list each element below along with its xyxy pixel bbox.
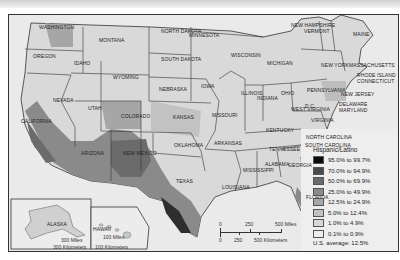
state-label: OKLAHOMA [174,143,203,148]
alaska-scale-km: 300 Kilometers [53,244,86,250]
state-label: MONTANA [99,38,124,43]
legend-swatch [313,167,324,175]
state-label: NEW JERSEY [341,92,375,97]
state-label: NEW MEXICO [123,151,157,156]
state-label: MASSACHUSETTS [349,63,395,68]
legend-swatch [313,219,324,227]
state-label: IDAHO [74,61,90,66]
state-label: NEBRASKA [159,87,187,92]
hawaii-label: HAWAII [93,227,111,232]
legend-item: 1.0% to 4.9% [313,218,399,229]
hawaii-scale-miles: 100 Miles [103,234,124,240]
state-label: D.C. [305,104,315,109]
legend-item: 25.0% to 49.9% [313,187,399,198]
state-label: ARIZONA [81,151,104,156]
alaska-label: ALASKA [47,222,67,227]
state-label: VIRGINIA [311,118,334,123]
state-label: VERMONT [304,29,330,34]
state-label: TENNESSEE [269,147,300,152]
scale-bar: 0 250 500 Miles 0 250 500 Kilometers [217,221,307,249]
scale-miles-250: 250 [245,221,253,227]
legend-swatch [313,177,324,185]
state-label: NORTH CAROLINA [306,135,352,140]
legend-title: Hispanic/Latino [313,146,399,153]
state-label: MINNESOTA [189,33,219,38]
state-label: NEVADA [53,98,74,103]
legend-us-average: U.S. average: 12.5% [313,240,399,246]
state-label: MAINE [353,32,369,37]
top-shadow-bar [0,0,400,8]
state-label: LOUISIANA [222,185,250,190]
legend-label: 0.1% to 0.9% [328,231,364,237]
state-label: UTAH [88,106,102,111]
state-label: INDIANA [257,96,278,101]
legend-label: 5.0% to 12.4% [328,210,367,216]
legend-label: 70.0% to 94.9% [328,168,370,174]
scale-miles-0: 0 [219,221,222,227]
scale-km-250: 250 [234,237,242,243]
scale-miles-500: 500 Miles [275,221,296,227]
scale-km-0: 0 [219,237,222,243]
state-label: MARYLAND [339,108,368,113]
legend-item: 5.0% to 12.4% [313,208,399,219]
legend-item: 12.5% to 24.9% [313,197,399,208]
legend-swatch [313,230,324,238]
state-label: ARKANSAS [214,141,242,146]
state-label: CALIFORNIA [21,119,52,124]
state-label: MISSISSIPPI [243,168,274,173]
state-label: TEXAS [176,179,193,184]
state-label: WYOMING [113,75,139,80]
state-label: MISSOURI [212,113,238,118]
state-label: NEW YORK [321,63,349,68]
legend-item: 70.0% to 94.9% [313,166,399,177]
legend-item: 0.1% to 0.9% [313,229,399,240]
map-frame: WASHINGTONOREGONIDAHOMONTANAWYOMINGNEVAD… [8,14,399,252]
state-label: GEORGIA [288,163,312,168]
state-label: ALABAMA [265,162,289,167]
legend-label: 25.0% to 49.9% [328,189,370,195]
scale-km-500: 500 Kilometers [254,237,287,243]
state-label: KANSAS [173,115,194,120]
state-label: OREGON [33,54,56,59]
legend-swatch [313,188,324,196]
legend-label: 12.5% to 24.9% [328,199,370,205]
state-label: WASHINGTON [39,25,74,30]
legend-swatch [313,198,324,206]
alaska-scale-miles: 300 Miles [61,237,82,243]
state-label: PENNSYLVANIA [307,88,346,93]
legend-swatch [313,156,324,164]
legend: Hispanic/Latino 95.0% to 99.7% 70.0% to … [313,146,399,246]
state-label: OHIO [281,91,294,96]
state-label: CONNECTICUT [357,79,395,84]
state-label: SOUTH DAKOTA [161,57,201,62]
legend-label: 95.0% to 99.7% [328,157,370,163]
legend-label: 1.0% to 4.9% [328,220,364,226]
legend-item: 50.0% to 69.9% [313,176,399,187]
state-label: WISCONSIN [231,53,261,58]
state-label: COLORADO [121,114,150,119]
state-label: MICHIGAN [267,61,293,66]
legend-swatch [313,209,324,217]
state-label: IOWA [201,84,215,89]
state-label: KENTUCKY [266,128,294,133]
legend-item: 95.0% to 99.7% [313,155,399,166]
legend-label: 50.0% to 69.9% [328,178,370,184]
hawaii-scale-km: 100 Kilometers [95,244,128,250]
